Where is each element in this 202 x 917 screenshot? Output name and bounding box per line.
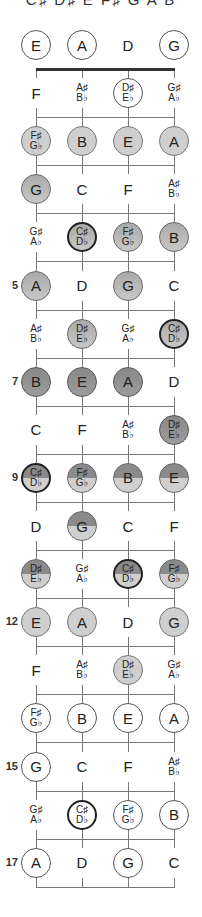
note-marker: G♯A♭ (67, 559, 97, 589)
note-marker: A (21, 271, 51, 301)
note-marker: D (159, 367, 189, 397)
note-marker: F♯G♭ (113, 800, 143, 830)
note-label: E♭ (168, 430, 179, 440)
note-marker: F♯G♭ (113, 222, 143, 252)
note-marker: D♯E♭ (21, 559, 51, 589)
note-marker: B (67, 126, 97, 156)
note-label: A♭ (168, 670, 179, 680)
note-label: B♭ (76, 93, 87, 103)
note-marker: C (67, 174, 97, 204)
note-marker: A♯B♭ (67, 78, 97, 108)
fret-line (36, 502, 175, 503)
note-label: E (77, 374, 87, 389)
fret-line (36, 454, 175, 455)
note-label: A♭ (30, 815, 41, 825)
note-label: B♭ (30, 334, 41, 344)
note-label: E♭ (122, 93, 133, 103)
note-label: G♭ (168, 574, 181, 584)
note-label: C (123, 519, 134, 534)
fret-number: 15 (2, 760, 18, 772)
note-label: D (123, 615, 134, 630)
fret-line (36, 646, 175, 647)
note-marker: G (159, 30, 189, 60)
note-label: A♭ (122, 334, 133, 344)
fret-line (36, 694, 175, 695)
note-marker: B (67, 703, 97, 733)
note-label: B♭ (168, 189, 179, 199)
note-label: B♭ (76, 670, 87, 680)
fret-number: 12 (2, 615, 18, 627)
note-label: C (169, 278, 180, 293)
note-label: F (31, 86, 40, 101)
note-marker: C♯D♭ (113, 559, 143, 589)
note-marker: D♯E♭ (113, 78, 143, 108)
note-label: B♭ (122, 430, 133, 440)
fret-number: 17 (2, 856, 18, 868)
note-marker: G♯A♭ (21, 800, 51, 830)
note-marker: A♯B♭ (67, 655, 97, 685)
note-marker: F♯G♭ (21, 126, 51, 156)
note-marker: A♯B♭ (159, 174, 189, 204)
note-label: D♭ (122, 574, 134, 584)
note-marker: D (113, 607, 143, 637)
note-label: C (77, 182, 88, 197)
note-label: A (77, 615, 87, 630)
note-label: E (169, 470, 179, 485)
note-marker: F (159, 511, 189, 541)
note-label: A (169, 711, 179, 726)
note-label: D♭ (168, 334, 180, 344)
fret-line (36, 165, 175, 166)
note-marker: C (67, 752, 97, 782)
note-label: E♭ (76, 334, 87, 344)
note-label: G♭ (30, 141, 43, 151)
note-marker: E (67, 367, 97, 397)
note-label: G♭ (122, 815, 135, 825)
note-label: B (123, 470, 133, 485)
fret-line (36, 310, 175, 311)
note-marker: D (67, 271, 97, 301)
note-marker: G (113, 848, 143, 878)
note-marker: A (21, 848, 51, 878)
note-marker: D♯E♭ (67, 319, 97, 349)
note-label: B♭ (168, 767, 179, 777)
nut (36, 68, 175, 71)
note-marker: E (21, 30, 51, 60)
fret-line (36, 742, 175, 743)
note-label: G (122, 278, 134, 293)
note-label: C (31, 422, 42, 437)
note-marker: F♯G♭ (21, 703, 51, 733)
note-marker: B (113, 463, 143, 493)
note-marker: E (159, 463, 189, 493)
note-marker: F (67, 415, 97, 445)
note-label: F (169, 519, 178, 534)
note-label: A♭ (168, 93, 179, 103)
note-label: F (31, 663, 40, 678)
note-label: E♭ (122, 670, 133, 680)
note-marker: G♯A♭ (21, 222, 51, 252)
note-label: G (168, 38, 180, 53)
note-label: D (31, 519, 42, 534)
note-marker: C♯D♭ (67, 800, 97, 830)
note-marker: F♯G♭ (159, 559, 189, 589)
note-label: D (169, 374, 180, 389)
note-label: G (30, 759, 42, 774)
fret-line (36, 839, 175, 840)
note-label: F (123, 182, 132, 197)
note-marker: C (159, 271, 189, 301)
note-label: B (77, 134, 87, 149)
note-label: C (169, 855, 180, 870)
note-marker: C♯D♭ (159, 319, 189, 349)
note-label: F (77, 422, 86, 437)
note-label: A♯ (168, 757, 180, 767)
note-label: G♭ (76, 478, 89, 488)
note-marker: A (159, 126, 189, 156)
note-label: C (77, 759, 88, 774)
note-label: D♭ (76, 237, 88, 247)
note-marker: F♯G♭ (67, 463, 97, 493)
note-marker: D♯E♭ (159, 415, 189, 445)
fret-line (36, 358, 175, 359)
note-marker: A♯B♭ (21, 319, 51, 349)
fret-line (36, 550, 175, 551)
note-label: D (77, 278, 88, 293)
fret-line (36, 406, 175, 407)
